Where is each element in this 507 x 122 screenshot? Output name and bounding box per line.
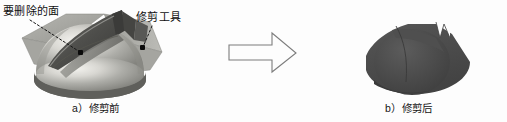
leader-line-delete-face <box>30 20 80 52</box>
result-bottom-shadow <box>374 80 432 93</box>
context-plate-left <box>22 14 104 46</box>
label-trim-tool: 修剪工具 <box>136 12 181 23</box>
trim-intersection-curve <box>52 36 118 68</box>
marker-dot-delete-face <box>78 50 83 55</box>
context-plate-front <box>22 38 162 76</box>
transition-arrow <box>229 33 296 72</box>
dome-base-ellipse <box>36 57 144 91</box>
dome-shadow-edge <box>36 28 70 74</box>
trim-surface-fin-b <box>122 11 136 40</box>
base-rim <box>34 61 146 99</box>
dome-body <box>36 24 144 74</box>
result-cut-face <box>392 29 444 52</box>
trim-surface-main <box>48 10 122 70</box>
dome-right-shade <box>106 27 144 74</box>
result-trim-edge <box>396 26 407 82</box>
trim-surface-fin-c <box>134 20 148 42</box>
trim-surface-fin-a <box>112 10 126 36</box>
label-delete-face: 要删除的面 <box>3 6 60 17</box>
trim-surface-back <box>60 34 124 78</box>
trim-operation-figure: 要删除的面 修剪工具 a）修剪前 b）修剪后 <box>0 0 507 122</box>
result-dome <box>374 29 450 95</box>
panel-after-art <box>366 22 470 95</box>
result-notch <box>436 22 450 38</box>
caption-after-trim: b）修剪后 <box>385 103 433 114</box>
result-plate <box>366 24 470 94</box>
result-notch-edge <box>436 22 450 38</box>
caption-before-trim: a）修剪前 <box>72 103 120 114</box>
leader-line-trim-tool <box>143 26 152 47</box>
base-side <box>34 72 146 99</box>
trim-surface-edge-highlight <box>50 16 114 66</box>
panel-before-art <box>22 10 162 99</box>
marker-dot-trim-tool <box>140 45 145 50</box>
